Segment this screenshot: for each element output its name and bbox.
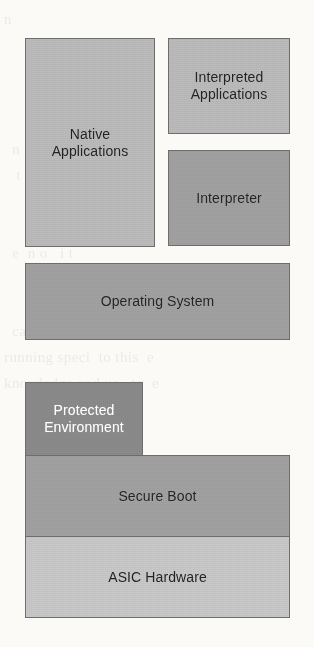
- layer-label-line-2: Environment: [44, 419, 124, 435]
- layer-label-operating-system: Operating System: [97, 293, 219, 310]
- layer-box-operating-system: Operating System: [25, 263, 290, 340]
- layer-label-line-1: Native: [70, 126, 110, 142]
- layer-label-line-1: Interpreted: [195, 69, 264, 85]
- layer-label-interpreted-applications: InterpretedApplications: [187, 69, 272, 103]
- layer-label-line-2: Applications: [52, 143, 129, 159]
- layer-label-interpreter: Interpreter: [192, 190, 266, 207]
- layer-label-asic-hardware: ASIC Hardware: [104, 569, 211, 586]
- layer-box-native-applications: NativeApplications: [25, 38, 155, 247]
- layer-box-interpreter: Interpreter: [168, 150, 290, 246]
- layer-box-secure-boot: Secure Boot: [25, 455, 290, 537]
- layer-box-protected-environment: ProtectedEnvironment: [25, 382, 143, 455]
- architecture-stack-diagram: n d l n o e n o e r a t s i n t a d e n …: [0, 0, 314, 647]
- layer-label-protected-environment: ProtectedEnvironment: [40, 402, 128, 436]
- layer-label-line-2: Applications: [191, 86, 268, 102]
- layer-box-interpreted-applications: InterpretedApplications: [168, 38, 290, 134]
- layer-label-secure-boot: Secure Boot: [114, 488, 200, 505]
- layer-label-line-1: Protected: [54, 402, 115, 418]
- layer-label-native-applications: NativeApplications: [48, 126, 133, 160]
- layer-box-asic-hardware: ASIC Hardware: [25, 537, 290, 618]
